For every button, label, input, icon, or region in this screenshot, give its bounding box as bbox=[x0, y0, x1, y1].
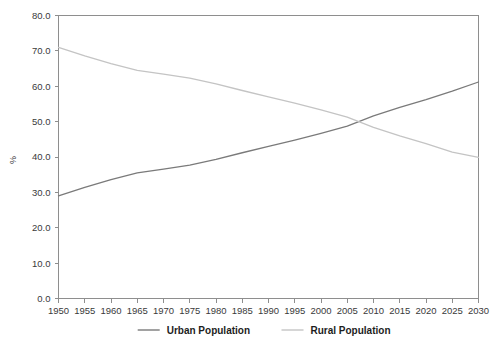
x-tick-label: 2010 bbox=[363, 305, 384, 316]
chart-legend: Urban PopulationRural Population bbox=[138, 325, 391, 336]
line-chart: 0.010.020.030.040.050.060.070.080.0 1950… bbox=[0, 0, 494, 351]
x-tick-label: 1975 bbox=[179, 305, 200, 316]
x-tick-label: 2000 bbox=[310, 305, 331, 316]
y-axis: 0.010.020.030.040.050.060.070.080.0 bbox=[32, 10, 59, 304]
x-tick-label: 2025 bbox=[442, 305, 463, 316]
y-tick-label: 40.0 bbox=[32, 151, 51, 162]
legend-label-rural-population: Rural Population bbox=[311, 325, 391, 336]
y-tick-label: 0.0 bbox=[37, 293, 50, 304]
chart-canvas: 0.010.020.030.040.050.060.070.080.0 1950… bbox=[0, 0, 494, 351]
y-tick-label: 70.0 bbox=[32, 45, 51, 56]
x-tick-label: 1980 bbox=[205, 305, 226, 316]
x-tick-label: 1995 bbox=[284, 305, 305, 316]
x-tick-label: 2015 bbox=[389, 305, 410, 316]
x-tick-label: 1950 bbox=[48, 305, 69, 316]
y-tick-label: 50.0 bbox=[32, 116, 51, 127]
data-series-group bbox=[59, 47, 479, 196]
x-tick-label: 1970 bbox=[153, 305, 174, 316]
series-line-urban-population bbox=[59, 82, 479, 196]
x-tick-label: 1990 bbox=[258, 305, 279, 316]
legend-label-urban-population: Urban Population bbox=[167, 325, 250, 336]
plot-frame bbox=[59, 16, 479, 299]
x-tick-label: 1985 bbox=[232, 305, 253, 316]
x-tick-label: 2005 bbox=[337, 305, 358, 316]
y-tick-label: 80.0 bbox=[32, 10, 51, 21]
x-axis: 1950195519601965197019751980198519901995… bbox=[48, 299, 489, 316]
y-tick-label: 20.0 bbox=[32, 222, 51, 233]
y-tick-label: 30.0 bbox=[32, 187, 51, 198]
x-tick-label: 1955 bbox=[74, 305, 95, 316]
x-tick-label: 2020 bbox=[415, 305, 436, 316]
y-tick-label: 10.0 bbox=[32, 258, 51, 269]
y-tick-label: 60.0 bbox=[32, 81, 51, 92]
x-tick-label: 1965 bbox=[127, 305, 148, 316]
x-tick-label: 1960 bbox=[100, 305, 121, 316]
y-axis-title: % bbox=[8, 156, 18, 164]
y-axis-title-label: % bbox=[8, 156, 18, 164]
x-tick-label: 2030 bbox=[468, 305, 489, 316]
